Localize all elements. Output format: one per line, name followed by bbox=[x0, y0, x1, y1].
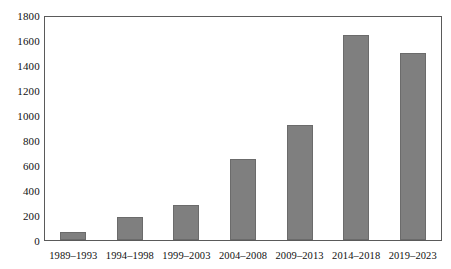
x-axis-tick-slot: 2009–2013 bbox=[271, 245, 328, 265]
y-axis-tick-label: 1400 bbox=[17, 61, 40, 72]
y-axis: 020040060080010001200140016001800 bbox=[0, 16, 40, 241]
bar[interactable] bbox=[400, 53, 426, 240]
bar[interactable] bbox=[60, 232, 86, 240]
bar-slot bbox=[328, 17, 385, 240]
bar-slot bbox=[215, 17, 272, 240]
x-axis-tick-label: 1999–2003 bbox=[162, 250, 210, 261]
x-axis-tick-label: 1989–1993 bbox=[49, 250, 97, 261]
y-axis-tick-label: 1200 bbox=[17, 86, 40, 97]
y-axis-tick-label: 400 bbox=[23, 186, 40, 197]
y-axis-tick-label: 1000 bbox=[17, 111, 40, 122]
x-axis-tick-slot: 2014–2018 bbox=[328, 245, 385, 265]
x-axis-tick-slot: 1989–1993 bbox=[45, 245, 102, 265]
bar[interactable] bbox=[343, 35, 369, 240]
bar-slot bbox=[158, 17, 215, 240]
y-axis-tick-label: 1600 bbox=[17, 36, 40, 47]
y-axis-tick-label: 200 bbox=[23, 211, 40, 222]
x-axis-tick-label: 2004–2008 bbox=[219, 250, 267, 261]
x-axis-tick-slot: 2004–2008 bbox=[215, 245, 272, 265]
y-axis-tick-label: 1800 bbox=[17, 11, 40, 22]
x-axis-tick-label: 2014–2018 bbox=[332, 250, 380, 261]
bar[interactable] bbox=[173, 205, 199, 240]
bar-chart: 020040060080010001200140016001800 1989–1… bbox=[0, 0, 451, 269]
bar[interactable] bbox=[117, 217, 143, 240]
x-axis-tick-label: 2019–2023 bbox=[389, 250, 437, 261]
x-axis-tick-label: 2009–2013 bbox=[276, 250, 324, 261]
x-axis: 1989–19931994–19981999–20032004–20082009… bbox=[45, 245, 441, 265]
x-axis-tick-slot: 1999–2003 bbox=[158, 245, 215, 265]
x-axis-tick-label: 1994–1998 bbox=[106, 250, 154, 261]
bar[interactable] bbox=[287, 125, 313, 240]
y-axis-tick-label: 800 bbox=[23, 136, 40, 147]
bar-slot bbox=[271, 17, 328, 240]
bar-slot bbox=[45, 17, 102, 240]
bar-slot bbox=[102, 17, 159, 240]
bar[interactable] bbox=[230, 159, 256, 240]
x-axis-tick-slot: 1994–1998 bbox=[102, 245, 159, 265]
bars-container bbox=[45, 17, 441, 240]
x-axis-tick-slot: 2019–2023 bbox=[384, 245, 441, 265]
y-axis-tick-label: 0 bbox=[34, 236, 40, 247]
bar-slot bbox=[384, 17, 441, 240]
y-axis-tick-label: 600 bbox=[23, 161, 40, 172]
